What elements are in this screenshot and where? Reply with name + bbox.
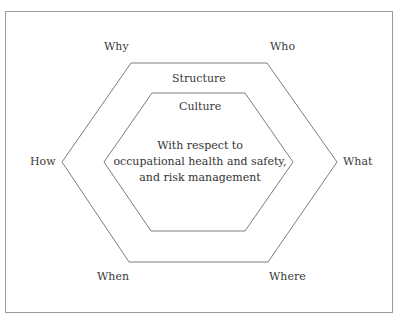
- center-line-2: occupational health and safety,: [100, 154, 300, 170]
- label-what: What: [343, 155, 372, 169]
- label-why: Why: [104, 40, 129, 54]
- center-line-3: and risk management: [100, 170, 300, 186]
- center-line-1: With respect to: [100, 138, 300, 154]
- label-culture: Culture: [179, 100, 221, 114]
- label-where: Where: [269, 270, 306, 284]
- label-when: When: [97, 270, 129, 284]
- label-structure: Structure: [172, 72, 226, 86]
- label-how: How: [30, 155, 56, 169]
- label-who: Who: [270, 40, 295, 54]
- center-statement: With respect to occupational health and …: [100, 138, 300, 186]
